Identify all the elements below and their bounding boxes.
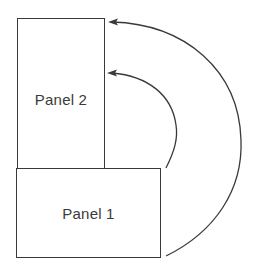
panel-2-label: Panel 2 xyxy=(35,91,87,108)
inner-arrow xyxy=(112,73,177,168)
outer-arrowhead-icon xyxy=(108,19,118,26)
diagram-canvas: Panel 2 Panel 1 xyxy=(0,0,255,274)
panel-1-label: Panel 1 xyxy=(62,205,114,222)
panel-2-box: Panel 2 xyxy=(17,18,105,169)
panel-1-box: Panel 1 xyxy=(16,168,161,258)
inner-arrowhead-icon xyxy=(107,70,117,77)
